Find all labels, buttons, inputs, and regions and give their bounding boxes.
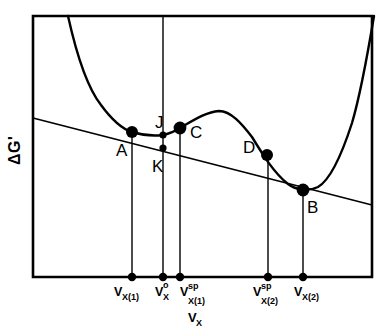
axis-dot-vx1sp <box>176 273 184 281</box>
common-tangent-line <box>33 118 372 205</box>
point-label-c: C <box>190 123 202 142</box>
x-tick-sub-vx1: X(1) <box>122 292 139 302</box>
x-axis-title-sub: X <box>196 318 202 328</box>
x-tick-sup-vx1sp: sp <box>188 281 199 291</box>
point-label-a: A <box>116 141 128 160</box>
y-axis-label: ΔG' <box>6 136 23 165</box>
axis-dot-vx2sp <box>264 273 272 281</box>
x-tick-sup-vx2sp: sp <box>261 281 272 291</box>
free-energy-plot: A J K C D B V X(1) V X o <box>0 0 385 334</box>
x-tick-label-vx1sp: V X(1) sp <box>180 281 205 306</box>
point-marker-b <box>297 184 310 197</box>
point-marker-k <box>159 144 166 151</box>
x-tick-sub-vx1sp: X(1) <box>188 296 205 306</box>
free-energy-figure: A J K C D B V X(1) V X o <box>0 0 385 334</box>
x-tick-label-vx2: V X(2) <box>294 285 319 302</box>
x-tick-label-vx1: V X(1) <box>114 285 139 302</box>
point-marker-d <box>261 149 273 161</box>
x-tick-sup-vxo: o <box>163 280 169 290</box>
plot-frame <box>33 16 372 277</box>
x-tick-labels-group: V X(1) V X o V X(1) sp V X(2) sp V X(2) <box>114 280 319 306</box>
axis-dot-vx1 <box>128 273 136 281</box>
x-tick-sub-vx2: X(2) <box>302 292 319 302</box>
x-tick-label-vxo: V X o <box>155 280 169 302</box>
point-label-j: J <box>155 113 164 132</box>
axis-dot-vx2 <box>299 273 307 281</box>
x-tick-label-vx2sp: V X(2) sp <box>253 281 278 306</box>
point-label-b: B <box>307 198 318 217</box>
point-marker-a <box>126 126 138 138</box>
x-tick-sub-vxo: X <box>163 292 169 302</box>
point-label-k: K <box>152 157 164 176</box>
point-marker-c <box>174 122 187 135</box>
x-axis-title-group: V X <box>188 310 202 328</box>
point-marker-j <box>159 131 166 138</box>
drop-lines-group <box>132 16 303 277</box>
free-energy-curve <box>68 16 374 190</box>
x-tick-sub-vx2sp: X(2) <box>261 296 278 306</box>
point-label-d: D <box>243 138 255 157</box>
